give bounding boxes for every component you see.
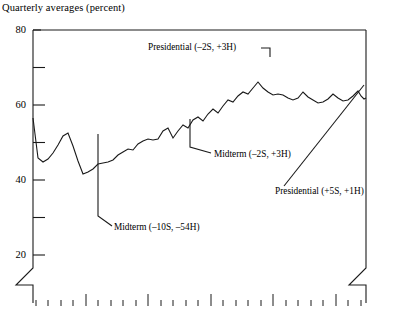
chart-container: Quarterly averages (percent) 80 60 40 20…: [0, 0, 400, 309]
right-axis-break-zigzag: [349, 265, 366, 303]
leader-midterm-mid: [190, 119, 211, 153]
data-line-quarterly-average: [33, 82, 366, 174]
leader-presidential-right: [284, 85, 364, 186]
leader-presidential-top: [261, 48, 270, 57]
leader-midterm-bottom: [98, 134, 112, 226]
x-axis-ticks: [36, 294, 361, 306]
plot-svg: [0, 0, 400, 309]
y-axis-break-zigzag: [16, 265, 33, 303]
